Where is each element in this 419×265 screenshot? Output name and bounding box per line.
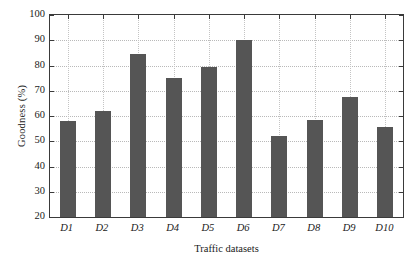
y-axis-tick [50,66,54,67]
bar-d2 [95,111,111,217]
y-axis-tick-label: 40 [5,161,45,171]
y-axis-tick-label: 70 [5,85,45,95]
plot-area [49,14,404,218]
bar-chart-figure: Goodness (%) 2030405060708090100 D1D2D3D… [0,0,419,265]
y-axis-tick-label: 20 [5,211,45,221]
y-axis-tick-right [399,116,403,117]
y-axis-tick-label: 60 [5,110,45,120]
y-axis-tick-right [399,91,403,92]
y-axis-tick-labels: 2030405060708090100 [0,14,45,218]
x-axis-tick-top [174,15,175,19]
x-axis-tick-top [103,15,104,19]
bar-d10 [377,127,393,217]
bar-d9 [342,97,358,217]
bar-d8 [307,120,323,217]
x-axis-tick-top [279,15,280,19]
y-axis-tick [50,40,54,41]
y-axis-tick-label: 30 [5,186,45,196]
bar-d3 [130,54,146,217]
y-axis-tick-right [399,167,403,168]
y-axis-tick-right [399,66,403,67]
y-axis-tick [50,91,54,92]
y-axis-tick-label: 50 [5,135,45,145]
x-axis-title: Traffic datasets [49,243,404,255]
y-axis-tick [50,15,54,16]
y-axis-tick [50,217,54,218]
y-axis-tick-label: 100 [5,9,45,19]
y-axis-tick [50,192,54,193]
y-axis-tick [50,141,54,142]
bar-d7 [271,136,287,217]
y-axis-tick-label: 90 [5,34,45,44]
y-axis-tick [50,167,54,168]
x-axis-tick-top [209,15,210,19]
bar-d5 [201,67,217,217]
x-axis-tick-top [138,15,139,19]
y-axis-tick-right [399,40,403,41]
bar-d1 [60,121,76,217]
x-axis-tick-top [385,15,386,19]
bar-d4 [166,78,182,217]
x-axis-tick-top [315,15,316,19]
y-axis-tick-right [399,15,403,16]
x-axis-tick-top [68,15,69,19]
x-axis-tick-top [350,15,351,19]
bar-d6 [236,40,252,217]
x-axis-tick-labels: D1D2D3D4D5D6D7D8D9D10 [49,222,404,236]
y-axis-tick-right [399,141,403,142]
x-axis-tick-label-d10: D10 [359,222,409,234]
x-axis-tick-top [244,15,245,19]
y-axis-tick-right [399,192,403,193]
y-axis-tick-label: 80 [5,60,45,70]
y-axis-tick-right [399,217,403,218]
y-axis-tick [50,116,54,117]
